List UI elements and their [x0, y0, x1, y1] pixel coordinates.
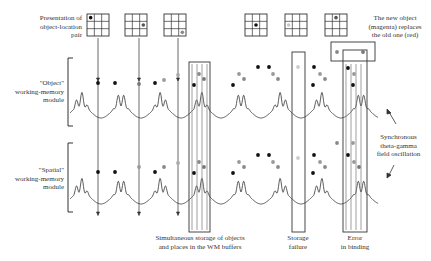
new-object-label: The new object (magenta) replaces the ol…	[360, 14, 430, 40]
storage-failure-box	[292, 52, 305, 232]
storage-failure-label: Storage failure	[278, 234, 318, 251]
highlight-boxes	[189, 42, 375, 232]
binding-lines	[192, 64, 361, 230]
presentation-grids	[87, 14, 347, 36]
error-binding-label: Error in binding	[335, 234, 375, 251]
object-module-label: "Object" working-memory module	[2, 79, 64, 105]
module-brackets	[68, 58, 73, 212]
error-binding-box	[343, 50, 367, 232]
presentation-label: Presentation of object-location pair	[2, 14, 82, 40]
synchronous-label: Synchronous theta-gamma field oscillatio…	[366, 133, 431, 159]
theta-gamma-waves	[70, 92, 378, 204]
spatial-module-label: "Spatial" working-memory module	[2, 166, 64, 192]
simultaneous-storage-label: Simultaneous storage of objects and plac…	[140, 234, 260, 251]
